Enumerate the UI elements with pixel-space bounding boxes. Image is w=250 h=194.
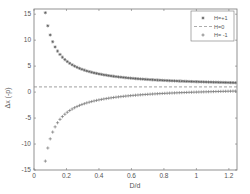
x-tick-label: 0.8	[159, 172, 168, 179]
y-tick-label: -15	[22, 166, 32, 173]
y-tick-label: -5	[25, 114, 31, 121]
x-tick-label: 1	[195, 172, 199, 179]
x-tick-label: 0	[32, 172, 36, 179]
chart: 00.20.40.60.811.2-15-10-5051015 H=+1H=0H…	[0, 0, 250, 194]
x-tick-label: 0.2	[62, 172, 71, 179]
x-tick-label: 0.6	[127, 172, 136, 179]
legend-label: H=+1	[214, 15, 227, 21]
legend-label: H=0	[214, 24, 224, 30]
legend: H=+1H=0H= -1	[191, 11, 234, 41]
y-tick-label: -10	[22, 140, 32, 147]
y-tick-label: 5	[27, 62, 31, 69]
y-axis-label: Δx (-p)	[4, 87, 12, 108]
y-tick-label: 10	[24, 36, 32, 43]
x-axis-label: D/d	[130, 182, 141, 189]
x-tick-label: 0.4	[94, 172, 103, 179]
y-tick-label: 15	[24, 10, 32, 17]
y-tick-label: 0	[27, 88, 31, 95]
x-tick-label: 1.2	[224, 172, 233, 179]
legend-label: H= -1	[214, 32, 228, 38]
